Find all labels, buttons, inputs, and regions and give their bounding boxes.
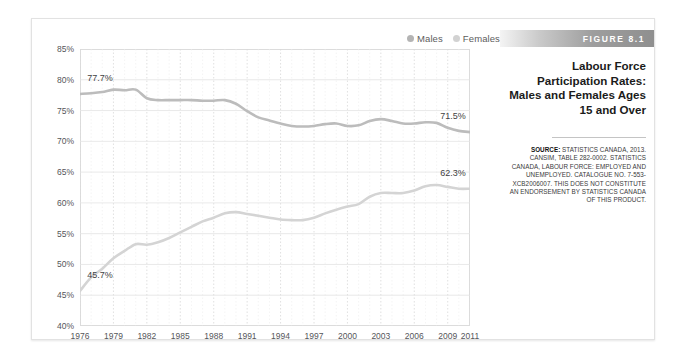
y-tick-80: 80% bbox=[57, 75, 74, 85]
legend-swatch-females bbox=[453, 35, 460, 42]
legend-entry-males: Males bbox=[407, 33, 443, 44]
x-tick-2009: 2009 bbox=[438, 331, 457, 341]
figure-number-label: FIGURE 8.1 bbox=[583, 34, 654, 44]
x-tick-2011: 2011 bbox=[461, 331, 479, 341]
y-tick-55: 55% bbox=[57, 229, 74, 239]
x-tick-2006: 2006 bbox=[405, 331, 424, 341]
x-tick-2003: 2003 bbox=[371, 331, 390, 341]
legend-label-males: Males bbox=[417, 33, 443, 44]
figure-title-line-0: Labour Force bbox=[506, 59, 646, 74]
figure-title-line-1: Participation Rates: bbox=[506, 74, 646, 89]
annotation-males-2011: 71.5% bbox=[440, 111, 466, 121]
legend-label-females: Females bbox=[463, 33, 500, 44]
figure-title-line-3: 15 and Over bbox=[506, 103, 646, 118]
x-tick-2000: 2000 bbox=[338, 331, 357, 341]
legend-entry-females: Females bbox=[453, 33, 500, 44]
panel-divider bbox=[552, 137, 646, 138]
x-tick-1976: 1976 bbox=[71, 331, 90, 341]
x-tick-1982: 1982 bbox=[137, 331, 156, 341]
figure-title: Labour ForceParticipation Rates:Males an… bbox=[506, 59, 646, 117]
plot-canvas bbox=[80, 49, 470, 326]
source-prefix-label: SOURCE: bbox=[531, 146, 560, 153]
x-tick-1985: 1985 bbox=[171, 331, 190, 341]
y-tick-85: 85% bbox=[57, 44, 74, 54]
figure-number-banner: FIGURE 8.1 bbox=[500, 30, 654, 47]
figure-page: Males Females 40%45%50%55%60%65%70%75%80… bbox=[31, 18, 655, 340]
y-tick-60: 60% bbox=[57, 198, 74, 208]
x-tick-1979: 1979 bbox=[104, 331, 123, 341]
y-tick-50: 50% bbox=[57, 259, 74, 269]
x-tick-1991: 1991 bbox=[238, 331, 257, 341]
plot-area: 40%45%50%55%60%65%70%75%80%85% 197619791… bbox=[80, 49, 470, 326]
y-tick-75: 75% bbox=[57, 106, 74, 116]
chart-legend: Males Females bbox=[407, 33, 500, 44]
x-tick-1988: 1988 bbox=[204, 331, 223, 341]
caption-panel: FIGURE 8.1 Labour ForceParticipation Rat… bbox=[500, 19, 654, 339]
figure-title-line-2: Males and Females Ages bbox=[506, 88, 646, 103]
annotation-females-1976: 45.7% bbox=[87, 270, 113, 280]
chart-region: Males Females 40%45%50%55%60%65%70%75%80… bbox=[32, 19, 502, 339]
y-tick-40: 40% bbox=[57, 321, 74, 331]
legend-swatch-males bbox=[407, 35, 414, 42]
x-tick-1997: 1997 bbox=[305, 331, 324, 341]
annotation-females-2011: 62.3% bbox=[440, 168, 466, 178]
x-tick-1994: 1994 bbox=[271, 331, 290, 341]
y-tick-45: 45% bbox=[57, 290, 74, 300]
y-tick-65: 65% bbox=[57, 167, 74, 177]
y-tick-70: 70% bbox=[57, 136, 74, 146]
source-body-text: STATISTICS CANADA, 2013. CANSIM, TABLE 2… bbox=[510, 146, 646, 203]
figure-source-note: SOURCE: STATISTICS CANADA, 2013. CANSIM,… bbox=[504, 146, 646, 205]
annotation-males-1976: 77.7% bbox=[87, 73, 113, 83]
